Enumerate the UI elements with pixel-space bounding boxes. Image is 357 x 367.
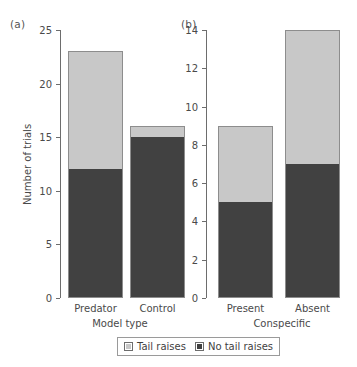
y-tick-mark	[56, 244, 60, 245]
bar-segment-no-tail-raises	[285, 164, 340, 298]
y-tick-label: 8	[176, 139, 198, 150]
y-tick-mark	[56, 298, 60, 299]
legend-label-no-tail-raises: No tail raises	[208, 341, 273, 352]
y-tick-label: 2	[176, 254, 198, 265]
panel-a-x-axis-title: Model type	[92, 318, 148, 329]
category-label-predator: Predator	[74, 303, 117, 314]
y-tick-mark	[202, 183, 206, 184]
bar-absent	[285, 30, 340, 298]
legend-swatch-fill-dark	[197, 344, 202, 349]
y-tick-mark	[56, 30, 60, 31]
y-tick-mark	[56, 137, 60, 138]
y-tick-mark	[56, 84, 60, 85]
y-tick-mark	[202, 145, 206, 146]
bar-segment-no-tail-raises	[68, 169, 123, 298]
y-tick-label: 4	[176, 216, 198, 227]
panel-b-y-axis	[206, 30, 207, 298]
y-tick-label: 15	[30, 132, 52, 143]
bar-segment-tail-raises	[285, 30, 340, 164]
category-label-control: Control	[139, 303, 175, 314]
panel-b: (b) 02468101214 PresentAbsent Conspecifi…	[177, 0, 357, 335]
legend: Tail raises No tail raises	[117, 337, 280, 356]
y-tick-label: 5	[30, 239, 52, 250]
y-tick-mark	[56, 191, 60, 192]
panel-a-y-axis-title: Number of trials	[22, 124, 33, 205]
legend-entry-tail-raises: Tail raises	[124, 341, 186, 352]
y-tick-mark	[202, 68, 206, 69]
stacked-bar-figure: (a) 0510152025 PredatorControl Model typ…	[0, 0, 357, 367]
y-tick-label: 12	[176, 63, 198, 74]
y-tick-label: 0	[176, 293, 198, 304]
bar-segment-no-tail-raises	[218, 202, 273, 298]
panel-a-y-axis	[60, 30, 61, 298]
category-label-present: Present	[227, 303, 265, 314]
y-tick-label: 10	[176, 101, 198, 112]
y-tick-label: 10	[30, 185, 52, 196]
y-tick-label: 20	[30, 78, 52, 89]
y-tick-mark	[202, 260, 206, 261]
panel-a-tag: (a)	[10, 18, 25, 30]
y-tick-label: 25	[30, 25, 52, 36]
legend-swatch-no-tail-raises	[195, 342, 204, 351]
legend-entry-no-tail-raises: No tail raises	[195, 341, 273, 352]
legend-label-tail-raises: Tail raises	[137, 341, 186, 352]
y-tick-mark	[202, 298, 206, 299]
bar-present	[218, 126, 273, 298]
y-tick-label: 0	[30, 293, 52, 304]
bar-segment-tail-raises	[68, 51, 123, 169]
y-tick-mark	[202, 107, 206, 108]
bar-segment-tail-raises	[218, 126, 273, 203]
legend-swatch-fill-light	[126, 344, 131, 349]
y-tick-label: 6	[176, 178, 198, 189]
bar-predator	[68, 51, 123, 298]
y-tick-label: 14	[176, 25, 198, 36]
panel-b-x-axis-title: Conspecific	[253, 318, 310, 329]
y-tick-mark	[202, 30, 206, 31]
legend-swatch-tail-raises	[124, 342, 133, 351]
category-label-absent: Absent	[295, 303, 330, 314]
y-tick-mark	[202, 221, 206, 222]
panel-a: (a) 0510152025 PredatorControl Model typ…	[0, 0, 180, 335]
